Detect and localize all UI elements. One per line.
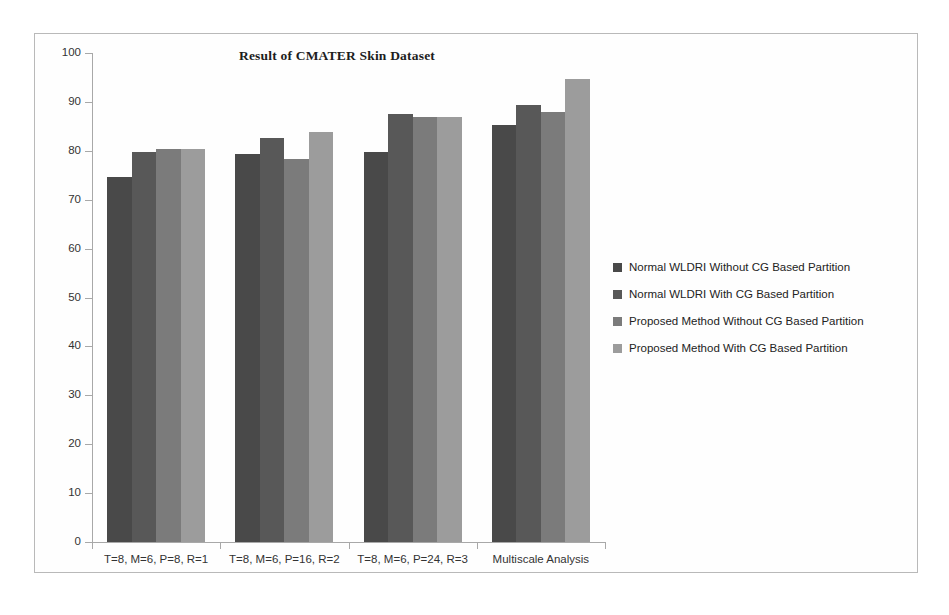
bar[interactable] (516, 105, 541, 542)
bar[interactable] (492, 125, 517, 542)
x-axis-tick (220, 542, 221, 549)
bar-group (220, 53, 348, 542)
bar[interactable] (309, 132, 334, 542)
y-axis-tick (85, 493, 92, 494)
bar[interactable] (565, 79, 590, 542)
bar[interactable] (541, 112, 566, 542)
y-axis-tick (85, 200, 92, 201)
x-axis-tick-label: T=8, M=6, P=16, R=2 (220, 553, 348, 566)
legend-item[interactable]: Proposed Method Without CG Based Partiti… (613, 308, 913, 335)
y-axis-tick-label: 60 (37, 243, 81, 255)
y-axis-tick (85, 298, 92, 299)
bar[interactable] (437, 117, 462, 542)
y-axis-tick-label: 20 (37, 438, 81, 450)
y-axis-tick-label: 40 (37, 340, 81, 352)
bar[interactable] (132, 152, 157, 542)
y-axis-tick (85, 102, 92, 103)
legend-label: Normal WLDRI Without CG Based Partition (629, 261, 850, 274)
bar[interactable] (388, 114, 413, 542)
y-axis-tick-label: 90 (37, 96, 81, 108)
legend-swatch-icon (613, 344, 622, 353)
bar[interactable] (284, 159, 309, 542)
x-axis-tick (477, 542, 478, 549)
bar-group (349, 53, 477, 542)
legend-item[interactable]: Normal WLDRI With CG Based Partition (613, 281, 913, 308)
y-axis-tick-label: 0 (37, 536, 81, 548)
x-axis-tick-label: T=8, M=6, P=24, R=3 (349, 553, 477, 566)
y-axis-tick-label: 100 (37, 47, 81, 59)
legend-label: Normal WLDRI With CG Based Partition (629, 288, 834, 301)
figure-frame: Result of CMATER Skin Dataset 0102030405… (34, 33, 918, 573)
y-axis-tick-label: 10 (37, 487, 81, 499)
x-axis-tick (349, 542, 350, 549)
legend-swatch-icon (613, 317, 622, 326)
y-axis-tick-label: 30 (37, 389, 81, 401)
y-axis-tick (85, 444, 92, 445)
bar[interactable] (413, 117, 438, 542)
y-axis-tick (85, 151, 92, 152)
y-axis-tick-labels: 0102030405060708090100 (35, 34, 81, 544)
bar[interactable] (235, 154, 260, 542)
legend-swatch-icon (613, 290, 622, 299)
bar[interactable] (107, 177, 132, 542)
chart-legend: Normal WLDRI Without CG Based PartitionN… (613, 254, 913, 362)
y-axis-tick (85, 53, 92, 54)
y-axis-tick (85, 395, 92, 396)
x-axis-tick (605, 542, 606, 549)
legend-label: Proposed Method Without CG Based Partiti… (629, 315, 864, 328)
legend-item[interactable]: Normal WLDRI Without CG Based Partition (613, 254, 913, 281)
legend-swatch-icon (613, 263, 622, 272)
bar[interactable] (181, 149, 206, 542)
bar[interactable] (156, 149, 181, 542)
y-axis-tick-label: 80 (37, 145, 81, 157)
legend-label: Proposed Method With CG Based Partition (629, 342, 848, 355)
y-axis-tick-label: 50 (37, 292, 81, 304)
x-axis-tick-label: Multiscale Analysis (477, 553, 605, 566)
y-axis-tick (85, 249, 92, 250)
y-axis-tick-label: 70 (37, 194, 81, 206)
plot-area (92, 53, 605, 542)
x-axis-tick (92, 542, 93, 549)
bar-group (92, 53, 220, 542)
bar-group (477, 53, 605, 542)
y-axis-tick (85, 542, 92, 543)
bar[interactable] (364, 152, 389, 542)
y-axis-tick (85, 346, 92, 347)
x-axis-tick-label: T=8, M=6, P=8, R=1 (92, 553, 220, 566)
bar[interactable] (260, 138, 285, 542)
legend-item[interactable]: Proposed Method With CG Based Partition (613, 335, 913, 362)
